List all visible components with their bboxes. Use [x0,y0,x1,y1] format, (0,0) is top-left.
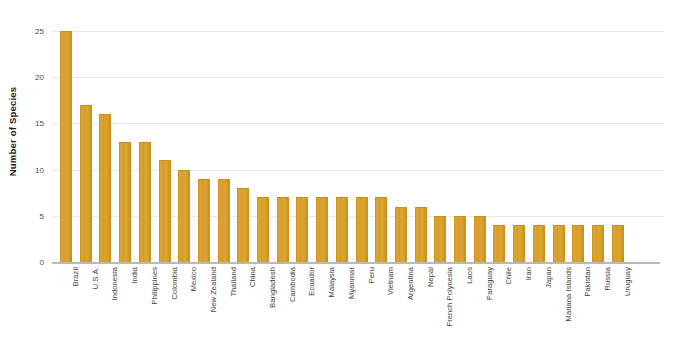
bar[interactable] [80,105,92,262]
bar[interactable] [257,197,269,262]
bar[interactable] [513,225,525,262]
bar[interactable] [572,225,584,262]
y-tick-label: 0 [40,258,44,267]
bar[interactable] [60,31,72,262]
x-axis-tick-labels: BrazilU.S.A.IndonesiaIndiaPhilippinesCol… [52,264,664,346]
bar[interactable] [395,207,407,262]
y-tick-label: 20 [35,73,44,82]
bar[interactable] [119,142,131,262]
y-tick-label: 15 [35,119,44,128]
bar[interactable] [356,197,368,262]
bar[interactable] [296,197,308,262]
bar[interactable] [454,216,466,262]
y-axis-title-label: Number of Species [8,86,19,175]
bar[interactable] [415,207,427,262]
bars-layer [52,0,664,262]
bar[interactable] [237,188,249,262]
bar[interactable] [178,170,190,262]
bar[interactable] [139,142,151,262]
bar[interactable] [592,225,604,262]
bar[interactable] [612,225,624,262]
bar[interactable] [99,114,111,262]
bar[interactable] [493,225,505,262]
bar[interactable] [553,225,565,262]
bar[interactable] [218,179,230,262]
bar[interactable] [336,197,348,262]
bar-chart: Number of Species 0510152025 BrazilU.S.A… [0,0,676,346]
bar[interactable] [316,197,328,262]
y-tick-label: 25 [35,27,44,36]
y-axis-title: Number of Species [0,0,26,262]
bar[interactable] [159,160,171,262]
y-axis-tick-labels: 0510152025 [26,0,48,290]
bar[interactable] [533,225,545,262]
y-tick-label: 5 [40,211,44,220]
bar[interactable] [277,197,289,262]
bar[interactable] [434,216,446,262]
bar[interactable] [474,216,486,262]
bar[interactable] [375,197,387,262]
y-tick-label: 10 [35,165,44,174]
bar[interactable] [198,179,210,262]
